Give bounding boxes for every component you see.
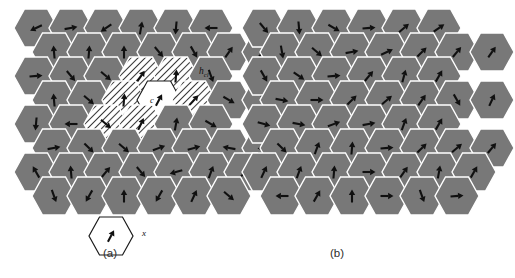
hex-cell bbox=[469, 32, 515, 72]
hex-cell bbox=[434, 176, 480, 216]
panel-a-label: (a) bbox=[103, 247, 117, 259]
hex-grid-b bbox=[228, 0, 460, 215]
panel-b: (b) bbox=[228, 0, 460, 278]
legend-x-label: x bbox=[142, 228, 146, 238]
hex-cell bbox=[469, 80, 515, 120]
hcl-label: hcl bbox=[199, 66, 209, 79]
hcl-subscript: cl bbox=[204, 71, 209, 79]
panel-a: c bbox=[0, 0, 235, 278]
panel-b-label: (b) bbox=[330, 247, 344, 259]
hex-grid-a: c bbox=[0, 0, 235, 215]
